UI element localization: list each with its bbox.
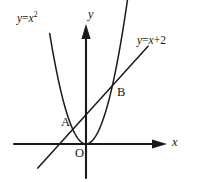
- intersection-point-b-label: B: [117, 86, 125, 99]
- origin-label: O: [75, 147, 84, 160]
- line-equation-label: y=x+2: [137, 35, 166, 47]
- x-axis: [14, 139, 167, 148]
- x-axis-label: x: [172, 136, 178, 149]
- intersection-point-a-label: A: [61, 116, 70, 129]
- figure-root: y=x2 y=x+2 y x A B O: [0, 0, 200, 182]
- straight-line-y-equals-x-plus-2: [38, 46, 148, 168]
- x-axis-arrowhead: [152, 139, 167, 148]
- y-axis-label: y: [88, 8, 94, 21]
- parabola-eq-exponent: 2: [34, 10, 38, 19]
- line-eq-constant: 2: [160, 34, 166, 46]
- parabola-equation-label: y=x2: [17, 13, 38, 25]
- graph-canvas: [0, 0, 200, 182]
- y-axis-arrowhead: [81, 24, 90, 39]
